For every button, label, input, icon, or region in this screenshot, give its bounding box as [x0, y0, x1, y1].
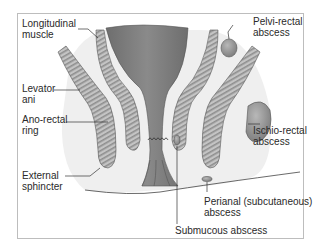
label-ischiorectal-abscess: Ischio-rectal abscess — [253, 125, 307, 147]
perianal-abscess — [202, 177, 212, 182]
label-external-sphincter: External sphincter — [22, 170, 63, 192]
label-perianal-abscess: Perianal (subcutaneous) abscess — [204, 196, 312, 218]
label-longitudinal-muscle: Longitudinal muscle — [22, 18, 76, 40]
label-pelvirectal-abscess: Pelvi-rectal abscess — [253, 16, 302, 38]
pelvirectal-abscess — [221, 39, 237, 57]
submucous-abscess — [174, 135, 180, 145]
label-anorectal-ring: Ano-rectal ring — [22, 114, 68, 136]
label-submucous-abscess: Submucous abscess — [175, 225, 267, 236]
label-levator-ani: Levator ani — [22, 83, 55, 105]
